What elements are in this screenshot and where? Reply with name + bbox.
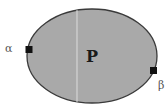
point-alpha-label: α xyxy=(5,42,13,55)
point-beta-label: β xyxy=(158,79,164,92)
point-beta-marker xyxy=(150,67,157,74)
diagram-canvas: P α β xyxy=(0,0,168,106)
point-alpha-marker xyxy=(26,46,33,53)
region-label: P xyxy=(86,47,98,66)
